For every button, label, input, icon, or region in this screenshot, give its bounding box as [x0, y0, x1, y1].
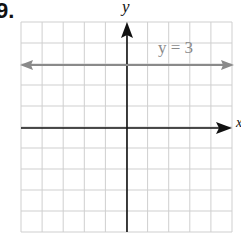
x-axis-label: x [236, 115, 241, 131]
coordinate-plane [0, 0, 241, 241]
y-axis-label: y [122, 0, 130, 17]
line-equation-label: y = 3 [158, 38, 193, 58]
